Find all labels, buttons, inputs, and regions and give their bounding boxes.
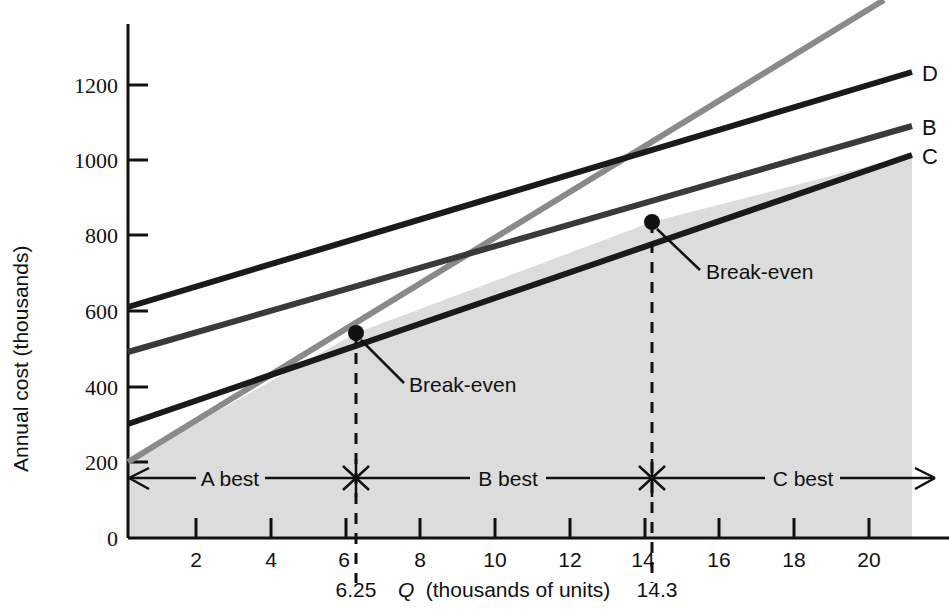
x-tick-label-16: 16 <box>707 548 730 571</box>
x-tick-label-18: 18 <box>782 548 805 571</box>
breakeven-2-x-value: 14.3 <box>637 578 678 601</box>
series-label-C: C <box>922 144 938 169</box>
region-label-c-best: C best <box>773 467 834 490</box>
breakeven-1-label: Break-even <box>409 373 516 396</box>
x-tick-label-4: 4 <box>265 548 277 571</box>
y-axis-title: Annual cost (thousands) <box>9 246 32 472</box>
breakeven-cost-chart-figure: 1200 1000 800 600 400 200 0 2 4 6 8 10 1… <box>0 0 949 612</box>
y-tick-label-0: 0 <box>107 526 118 551</box>
region-label-a-best: A best <box>201 467 260 490</box>
x-tick-label-2: 2 <box>190 548 202 571</box>
x-axis-title: Q (thousands of units) <box>398 578 610 601</box>
x-tick-label-12: 12 <box>558 548 581 571</box>
x-tick-label-8: 8 <box>414 548 426 571</box>
x-tick-label-20: 20 <box>857 548 880 571</box>
y-tick-label-200: 200 <box>85 450 118 475</box>
breakeven-2-point <box>644 214 660 230</box>
series-label-D: D <box>922 61 938 86</box>
x-axis-title-symbol: Q <box>398 578 414 601</box>
breakeven-2-label: Break-even <box>706 260 813 283</box>
y-tick-label-1000: 1000 <box>74 148 118 173</box>
breakeven-1-point <box>348 325 364 341</box>
y-axis-ticks <box>128 85 148 462</box>
breakeven-1-x-value: 6.25 <box>336 578 377 601</box>
series-label-B: B <box>922 115 937 140</box>
x-axis-title-units: (thousands of units) <box>426 578 610 601</box>
chart-canvas: 1200 1000 800 600 400 200 0 2 4 6 8 10 1… <box>0 0 949 612</box>
region-label-b-best: B best <box>478 467 538 490</box>
y-tick-label-1200: 1200 <box>74 73 118 98</box>
x-tick-label-6: 6 <box>338 548 350 571</box>
y-tick-label-800: 800 <box>85 223 118 248</box>
y-tick-label-600: 600 <box>85 299 118 324</box>
y-tick-label-400: 400 <box>85 375 118 400</box>
x-tick-label-10: 10 <box>483 548 506 571</box>
